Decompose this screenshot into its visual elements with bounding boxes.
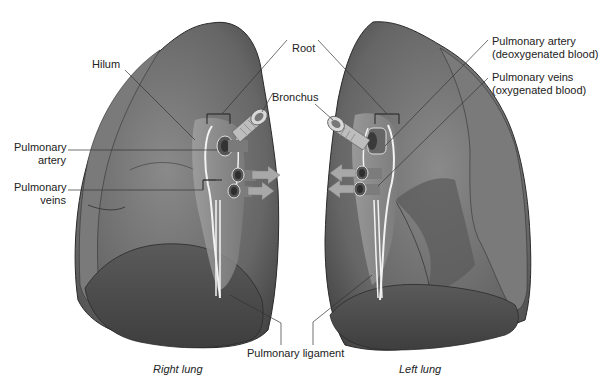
label-left-pulmonary-artery: Pulmonary artery (deoxygenated blood) [492, 35, 598, 61]
label-pulmonary-ligament: Pulmonary ligament [247, 347, 344, 360]
label-root: Root [292, 42, 315, 55]
label-hilum: Hilum [92, 58, 120, 71]
label-line-2: artery [14, 154, 66, 167]
label-bronchus: Bronchus [272, 91, 318, 104]
label-line-2: (deoxygenated blood) [492, 48, 598, 61]
label-line-1: Pulmonary veins [492, 71, 586, 84]
left-lung-base [330, 284, 518, 350]
right-lung [75, 22, 280, 347]
label-line-1: Pulmonary artery [492, 35, 598, 48]
label-line-1: Pulmonary [14, 141, 66, 154]
label-line-2: veins [14, 194, 66, 207]
left-pulmonary-artery [367, 128, 386, 154]
label-right-pulmonary-artery: Pulmonary artery [14, 141, 66, 167]
caption-right-lung: Right lung [153, 363, 203, 376]
label-right-pulmonary-veins: Pulmonary veins [14, 181, 66, 207]
label-left-pulmonary-veins: Pulmonary veins (oxygenated blood) [492, 71, 586, 97]
label-line-1: Pulmonary [14, 181, 66, 194]
label-line-2: (oxygenated blood) [492, 84, 586, 97]
leader-bronchus-left [315, 104, 333, 120]
caption-left-lung: Left lung [399, 363, 441, 376]
